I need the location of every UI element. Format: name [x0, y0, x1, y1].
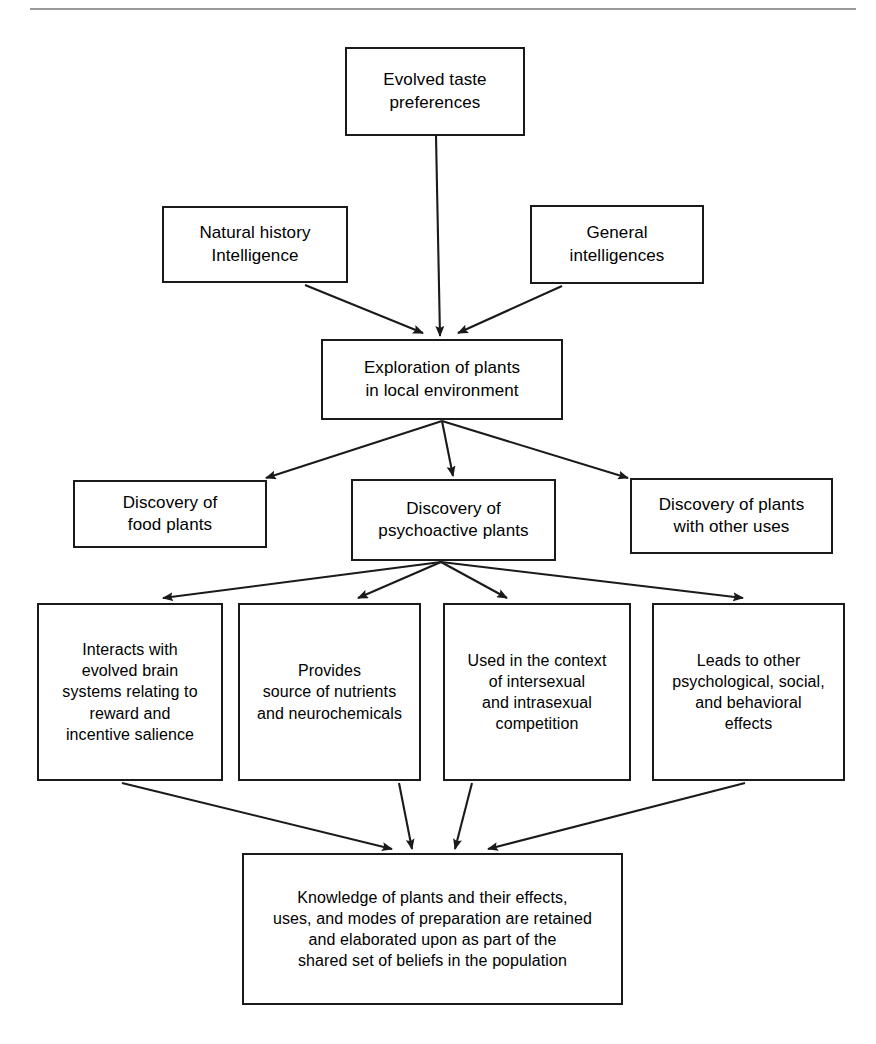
node-label: Exploration of plants in local environme…	[358, 357, 526, 402]
node-label: Leads to other psychological, social, an…	[666, 650, 831, 734]
node-exploration-of-plants[interactable]: Exploration of plants in local environme…	[321, 339, 563, 420]
node-knowledge-of-plants-retained[interactable]: Knowledge of plants and their effects, u…	[242, 853, 623, 1005]
node-label: Discovery of food plants	[117, 492, 224, 537]
edge-leads-to-other-to-knowledge	[488, 783, 745, 849]
node-label: Evolved taste preferences	[377, 69, 492, 114]
edge-taste-to-exploration	[436, 136, 440, 336]
node-label: Interacts with evolved brain systems rel…	[56, 639, 203, 745]
node-general-intelligences[interactable]: General intelligences	[530, 205, 704, 284]
node-provides-source-of-nutrients[interactable]: Provides source of nutrients and neuroch…	[238, 603, 421, 781]
edge-natural-history-to-exploration	[305, 285, 423, 333]
node-label: General intelligences	[564, 222, 671, 267]
edge-used-in-context-to-knowledge	[455, 783, 472, 849]
node-discovery-of-plants-with-other-uses[interactable]: Discovery of plants with other uses	[630, 478, 833, 554]
node-label: Used in the context of intersexual and i…	[462, 650, 613, 734]
node-used-in-context-of-competition[interactable]: Used in the context of intersexual and i…	[443, 603, 631, 781]
flowchart-page: Evolved taste preferences Natural histor…	[0, 0, 876, 1044]
edge-general-to-exploration	[458, 286, 562, 333]
node-label: Discovery of plants with other uses	[653, 494, 811, 539]
edge-psychoactive-to-leads-to-other	[441, 562, 743, 598]
node-natural-history-intelligence[interactable]: Natural history Intelligence	[162, 206, 348, 283]
node-discovery-of-food-plants[interactable]: Discovery of food plants	[73, 480, 267, 548]
node-evolved-taste-preferences[interactable]: Evolved taste preferences	[345, 47, 525, 136]
node-label: Knowledge of plants and their effects, u…	[267, 887, 598, 971]
edge-psychoactive-to-used-in-context	[441, 562, 507, 598]
edge-exploration-to-psychoactive	[442, 421, 453, 476]
edge-provides-to-knowledge	[399, 783, 412, 849]
node-interacts-with-evolved-brain-systems[interactable]: Interacts with evolved brain systems rel…	[37, 603, 223, 781]
page-header-rule	[30, 8, 856, 10]
edge-exploration-to-food-plants	[266, 421, 442, 478]
node-leads-to-other-effects[interactable]: Leads to other psychological, social, an…	[652, 603, 845, 781]
edge-psychoactive-to-provides	[358, 562, 441, 598]
edge-interacts-to-knowledge	[122, 783, 392, 849]
edge-psychoactive-to-interacts	[163, 562, 441, 598]
node-label: Provides source of nutrients and neuroch…	[251, 660, 408, 723]
node-label: Discovery of psychoactive plants	[372, 498, 534, 543]
node-label: Natural history Intelligence	[193, 222, 316, 267]
node-discovery-of-psychoactive-plants[interactable]: Discovery of psychoactive plants	[351, 479, 556, 561]
edge-exploration-to-other-uses	[442, 421, 628, 478]
